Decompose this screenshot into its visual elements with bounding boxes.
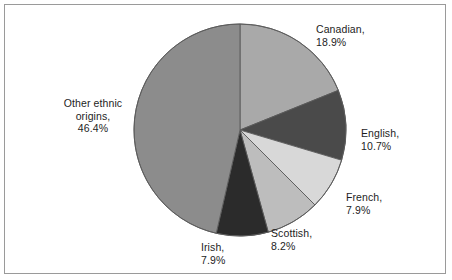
pie-label-canadian-name: Canadian, <box>316 23 365 36</box>
pie-label-scottish: Scottish, 8.2% <box>271 227 312 252</box>
pie-label-irish-value: 7.9% <box>201 254 225 267</box>
pie-slice-group <box>134 24 346 236</box>
pie-label-french-value: 7.9% <box>346 204 382 217</box>
pie-label-other-name-line2: origins, <box>45 110 141 123</box>
pie-label-canadian-value: 18.9% <box>316 36 365 49</box>
pie-label-english-name: English, <box>361 127 399 140</box>
pie-label-irish-name: Irish, <box>201 241 225 254</box>
pie-label-scottish-value: 8.2% <box>271 240 312 253</box>
pie-label-english-value: 10.7% <box>361 140 399 153</box>
chart-frame: Canadian, 18.9% English, 10.7% French, 7… <box>4 4 446 274</box>
pie-label-other-ethnic-origins: Other ethnic origins, 46.4% <box>45 97 141 135</box>
pie-label-other-value: 46.4% <box>45 122 141 135</box>
pie-label-english: English, 10.7% <box>361 127 399 152</box>
pie-label-other-name-line1: Other ethnic <box>45 97 141 110</box>
pie-label-canadian: Canadian, 18.9% <box>316 23 365 48</box>
pie-label-scottish-name: Scottish, <box>271 227 312 240</box>
pie-label-french: French, 7.9% <box>346 191 382 216</box>
pie-label-french-name: French, <box>346 191 382 204</box>
pie-label-irish: Irish, 7.9% <box>201 241 225 266</box>
